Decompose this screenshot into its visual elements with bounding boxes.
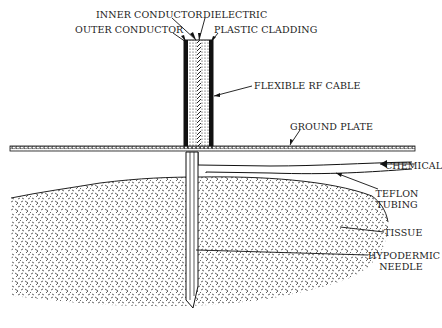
label-needle-line2: NEEDLE [368, 261, 434, 272]
rf-cable [184, 40, 213, 148]
label-ground-plate: GROUND PLATE [290, 121, 373, 132]
label-teflon-tubing: TEFLON TUBING [372, 188, 422, 210]
label-needle-line1: HYPODERMIC [368, 250, 434, 261]
outer-conductor-left [188, 40, 192, 148]
label-flexible-rf-cable: FLEXIBLE RF CABLE [254, 80, 360, 91]
label-hypodermic-needle: HYPODERMIC NEEDLE [368, 250, 434, 272]
label-chemical: CHEMICAL [385, 160, 442, 171]
label-teflon-line2: TUBING [372, 199, 422, 210]
dielectric-right [201, 40, 205, 148]
ground-plate [10, 146, 415, 151]
label-inner-conductor: INNER CONDUCTOR [96, 9, 203, 20]
plastic-cladding-right [209, 40, 213, 148]
tissue-region [11, 177, 388, 306]
leader-teflon [336, 173, 378, 189]
teflon-tubing [198, 152, 412, 174]
hypodermic-needle [186, 152, 198, 308]
label-dielectric: DIELECTRIC [203, 9, 267, 20]
inner-conductor [197, 40, 201, 148]
label-teflon-line1: TEFLON [372, 188, 422, 199]
label-outer-conductor: OUTER CONDUCTOR [75, 24, 183, 35]
outer-conductor-right [205, 40, 209, 148]
label-plastic-cladding: PLASTIC CLADDING [214, 24, 317, 35]
plastic-cladding-left [184, 40, 188, 148]
leader-ground-plate [290, 130, 300, 145]
dielectric-left [192, 40, 197, 148]
label-tissue: TISSUE [384, 227, 422, 238]
